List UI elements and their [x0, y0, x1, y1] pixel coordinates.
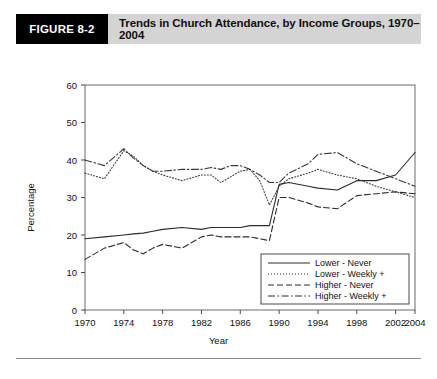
- x-tick-label: 2004: [404, 317, 425, 328]
- legend-label-1: Lower - Weekly +: [315, 269, 385, 279]
- chart-figure: 0102030405060197019741978198219861990199…: [0, 52, 437, 352]
- x-tick-label: 1982: [191, 317, 212, 328]
- footer-divider: [16, 358, 421, 359]
- figure-title: Trends in Church Attendance, by Income G…: [108, 14, 421, 44]
- y-tick-label: 10: [66, 267, 77, 278]
- plot-area: 0102030405060197019741978198219861990199…: [0, 52, 437, 352]
- x-tick-label: 1994: [307, 317, 328, 328]
- y-axis-title: Percentage: [25, 158, 36, 258]
- legend-label-2: Higher - Never: [315, 280, 374, 290]
- x-tick-label: 1986: [230, 317, 251, 328]
- x-tick-label: 1990: [269, 317, 290, 328]
- x-tick-label: 1998: [346, 317, 367, 328]
- y-tick-label: 30: [66, 192, 77, 203]
- line-chart-svg: 0102030405060197019741978198219861990199…: [0, 52, 437, 352]
- legend-label-0: Lower - Never: [315, 258, 372, 268]
- x-tick-label: 1974: [113, 317, 134, 328]
- y-tick-label: 60: [66, 80, 77, 91]
- x-tick-label: 1970: [74, 317, 95, 328]
- x-tick-label: 2002: [385, 317, 406, 328]
- series-line-0: [85, 153, 415, 239]
- x-tick-label: 1978: [152, 317, 173, 328]
- figure-number-tag: FIGURE 8-2: [16, 14, 108, 44]
- y-tick-label: 40: [66, 155, 77, 166]
- figure-header: FIGURE 8-2 Trends in Church Attendance, …: [16, 14, 421, 44]
- legend-label-3: Higher - Weekly +: [315, 291, 387, 301]
- y-tick-label: 0: [72, 305, 77, 316]
- y-tick-label: 50: [66, 117, 77, 128]
- x-axis-title: Year: [0, 335, 437, 346]
- y-tick-label: 20: [66, 230, 77, 241]
